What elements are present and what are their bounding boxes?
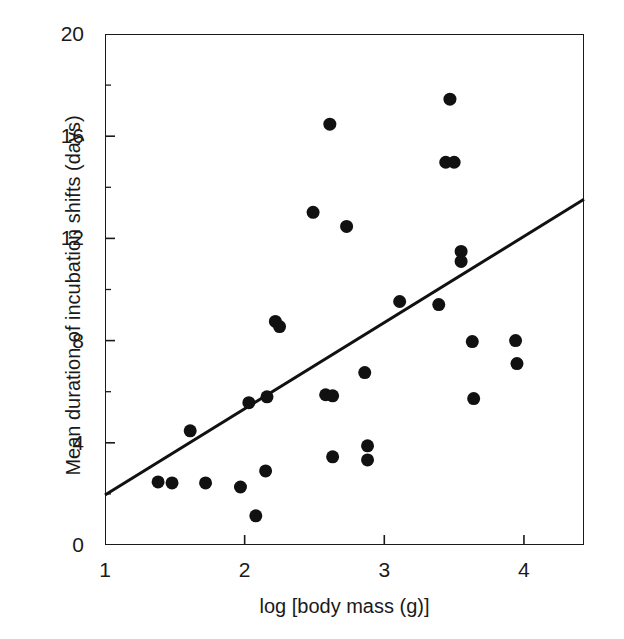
y-axis-title: Mean duration of incubation shifts (days… <box>62 40 85 551</box>
x-axis-title: log [body mass (g)] <box>105 595 584 618</box>
x-axis-tick-label: 3 <box>359 559 409 580</box>
x-axis-tick-label: 4 <box>499 559 549 580</box>
scatter-plot-figure: 048121620 1234 log [body mass (g)] Mean … <box>0 0 624 639</box>
x-axis-tick-label: 1 <box>80 559 130 580</box>
plot-area-frame <box>105 34 584 545</box>
x-axis-tick-label: 2 <box>220 559 270 580</box>
